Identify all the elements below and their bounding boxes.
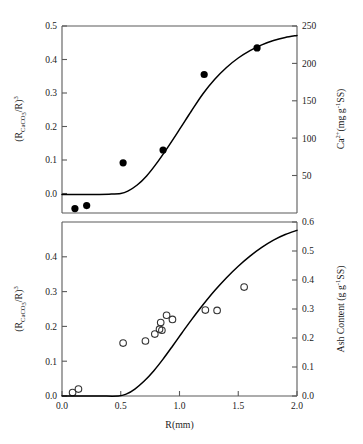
tick-label: 1.0 — [174, 401, 186, 411]
axis-title-suffix: SS) — [335, 89, 347, 103]
tick-label: 0.6 — [302, 217, 314, 227]
model-curve — [62, 35, 297, 194]
top-left-axis-ticks — [62, 26, 67, 194]
tick-label: 0.3 — [45, 88, 57, 98]
data-point — [241, 284, 248, 291]
axis-title-prefix: (R — [13, 321, 25, 331]
x-axis-title: R(mm) — [165, 419, 193, 431]
chart-svg: 0.5 0.4 0.3 0.2 0.1 0.0 250 200 150 100 — [0, 0, 363, 444]
data-point — [163, 312, 170, 319]
axis-title-mid: /R) — [13, 100, 25, 113]
data-point — [120, 340, 127, 347]
tick-label: 0.5 — [45, 21, 57, 31]
axis-title-sub1: CaCO — [19, 305, 26, 322]
model-curve — [62, 230, 297, 396]
axis-title-sup: 3 — [12, 286, 19, 290]
data-point — [83, 202, 90, 209]
svg-text:(RCaCO3/R)3: (RCaCO3/R)3 — [12, 96, 27, 142]
data-point — [214, 307, 221, 314]
top-panel-frame — [62, 26, 297, 213]
tick-label: 0.5 — [115, 401, 127, 411]
data-point — [142, 338, 149, 345]
tick-label: 0.3 — [302, 304, 314, 314]
data-point — [75, 386, 82, 393]
tick-label: 0.0 — [302, 391, 314, 401]
data-point — [202, 307, 209, 314]
tick-label: 0.2 — [45, 322, 57, 332]
bottom-right-axis-ticks — [292, 222, 297, 396]
data-point — [169, 316, 176, 323]
bottom-right-axis-tick-labels: 0.0 0.1 0.2 0.3 0.4 0.5 0.6 — [302, 217, 314, 401]
tick-label: 200 — [302, 59, 317, 69]
top-left-axis-tick-labels: 0.5 0.4 0.3 0.2 0.1 0.0 — [45, 21, 57, 199]
top-right-axis-title: Ca2+(mg g-1SS) — [334, 89, 347, 150]
svg-text:(RCaCO3/R)3: (RCaCO3/R)3 — [12, 286, 27, 332]
axis-title-sub1: CaCO — [19, 115, 26, 132]
tick-label: 0.4 — [302, 275, 314, 285]
tick-label: 1.5 — [232, 401, 244, 411]
tick-label: 0.1 — [45, 155, 57, 165]
bottom-panel: 0.0 0.1 0.2 0.3 0.4 0.0 0.1 0.2 0.3 — [12, 217, 347, 431]
tick-label: 0.5 — [302, 246, 314, 256]
tick-label: 50 — [302, 171, 312, 181]
tick-label: 2.0 — [291, 401, 303, 411]
tick-label: 150 — [302, 96, 317, 106]
x-axis-tick-labels: 0.0 0.5 1.0 1.5 2.0 — [56, 401, 303, 411]
axis-title-suffix: SS) — [335, 266, 347, 280]
data-point — [71, 205, 78, 212]
axis-title-sup: 3 — [12, 96, 19, 100]
tick-label: 0.0 — [45, 189, 57, 199]
tick-label: 0.2 — [302, 333, 314, 343]
tick-label: 250 — [302, 21, 317, 31]
data-point — [120, 159, 127, 166]
bottom-right-axis-title: Ash Content (g g-1SS) — [334, 266, 347, 353]
axis-title-mid: /R) — [13, 290, 25, 303]
tick-label: 100 — [302, 134, 317, 144]
bottom-panel-data — [62, 230, 297, 396]
bottom-left-axis-title: (RCaCO3/R)3 — [12, 286, 27, 332]
svg-text:Ash Content (g g-1SS): Ash Content (g g-1SS) — [334, 266, 347, 353]
top-panel-data — [62, 35, 297, 212]
tick-label: 0.2 — [45, 122, 57, 132]
svg-text:Ca2+(mg g-1SS): Ca2+(mg g-1SS) — [334, 89, 347, 150]
top-right-axis-tick-labels: 250 200 150 100 50 — [302, 21, 317, 181]
top-left-axis-title: (RCaCO3/R)3 — [12, 96, 27, 142]
axis-title-prefix: Ash Content (g g — [335, 285, 347, 352]
axis-title-prefix: (R — [13, 131, 25, 141]
top-panel: 0.5 0.4 0.3 0.2 0.1 0.0 250 200 150 100 — [12, 21, 347, 213]
tick-label: 0.4 — [45, 55, 57, 65]
tick-label: 0.4 — [45, 252, 57, 262]
top-right-axis-ticks — [292, 26, 297, 176]
bottom-left-axis-tick-labels: 0.0 0.1 0.2 0.3 0.4 — [45, 252, 57, 401]
tick-label: 0.1 — [302, 362, 314, 372]
axis-title-prefix: Ca — [335, 138, 346, 150]
axis-title-mid: (mg g — [335, 108, 347, 131]
data-point — [159, 327, 166, 334]
tick-label: 0.0 — [56, 401, 68, 411]
data-point — [157, 319, 164, 326]
data-point — [201, 71, 208, 78]
tick-label: 0.0 — [45, 391, 57, 401]
tick-label: 0.1 — [45, 357, 57, 367]
figure-container: 0.5 0.4 0.3 0.2 0.1 0.0 250 200 150 100 — [0, 0, 363, 444]
bottom-left-axis-ticks — [62, 257, 67, 396]
tick-label: 0.3 — [45, 287, 57, 297]
